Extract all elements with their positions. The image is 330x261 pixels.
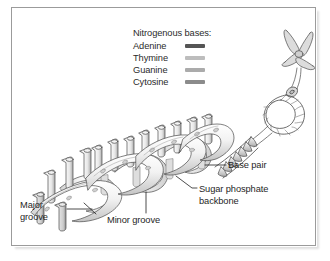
legend-item-guanine: Guanine (133, 64, 233, 76)
label-minor-groove: Minor groove (107, 215, 160, 227)
dna-helix-figure: Nitrogenous bases: Adenine Thymine Guani… (0, 0, 330, 261)
legend-label-adenine: Adenine (133, 41, 185, 51)
legend-swatch-adenine (185, 44, 205, 48)
legend-item-thymine: Thymine (133, 52, 233, 64)
leader-sugar-phosphate (176, 176, 197, 188)
legend-item-cytosine: Cytosine (133, 76, 233, 88)
label-base-pair: Base pair (228, 160, 266, 172)
legend-title: Nitrogenous bases: (133, 28, 233, 38)
legend-swatch-guanine (185, 68, 205, 72)
legend-label-guanine: Guanine (133, 65, 185, 75)
legend-swatch-thymine (185, 56, 205, 60)
label-sugar-phosphate-backbone: Sugar phosphate backbone (199, 184, 295, 207)
leader-major-groove-tick (84, 203, 96, 214)
legend-label-thymine: Thymine (133, 53, 185, 63)
legend-swatch-cytosine (185, 80, 205, 84)
legend-item-adenine: Adenine (133, 40, 233, 52)
legend: Nitrogenous bases: Adenine Thymine Guani… (133, 28, 233, 88)
legend-label-cytosine: Cytosine (133, 77, 185, 87)
label-major-groove: Major groove (20, 200, 66, 223)
